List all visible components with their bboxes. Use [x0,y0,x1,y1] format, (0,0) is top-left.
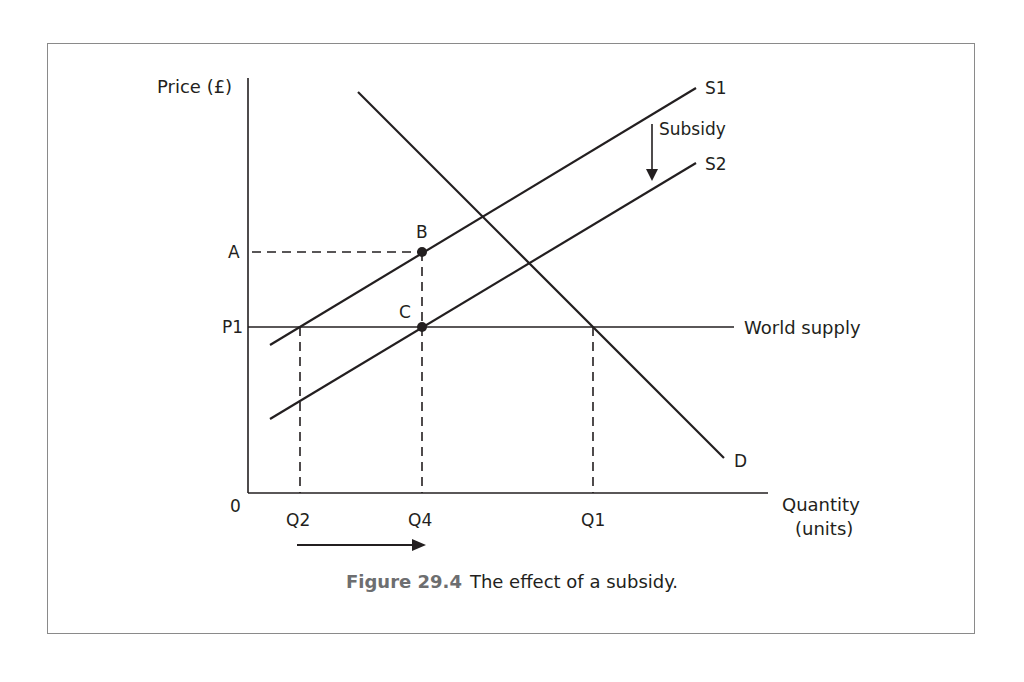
point-label-c: C [399,304,411,321]
x-axis-label-line2: (units) [795,520,853,538]
curve-label-s2: S2 [705,156,727,173]
origin-label: 0 [230,498,241,515]
point-c-marker [417,322,427,332]
point-b-marker [417,247,427,257]
figure-caption-text: The effect of a subsidy. [470,571,678,592]
world-supply-label: World supply [744,319,861,337]
demand-curve [358,92,724,458]
quantity-label-q1: Q1 [581,512,605,529]
price-label-a: A [228,244,240,261]
figure-number: Figure 29.4 [346,571,462,592]
quantity-label-q4: Q4 [408,512,432,529]
figure-caption: Figure 29.4The effect of a subsidy. [0,571,1024,592]
curve-label-s1: S1 [705,80,727,97]
subsidy-label: Subsidy [659,121,726,138]
quantity-arrowhead-icon [412,539,426,551]
curve-label-d: D [734,453,747,470]
s2-curve [270,163,696,419]
point-label-b: B [416,224,428,241]
subsidy-arrowhead-icon [646,169,658,181]
price-label-p1: P1 [222,319,243,336]
y-axis-label: Price (£) [157,78,232,96]
quantity-label-q2: Q2 [286,512,310,529]
x-axis-label-line1: Quantity [782,496,860,514]
